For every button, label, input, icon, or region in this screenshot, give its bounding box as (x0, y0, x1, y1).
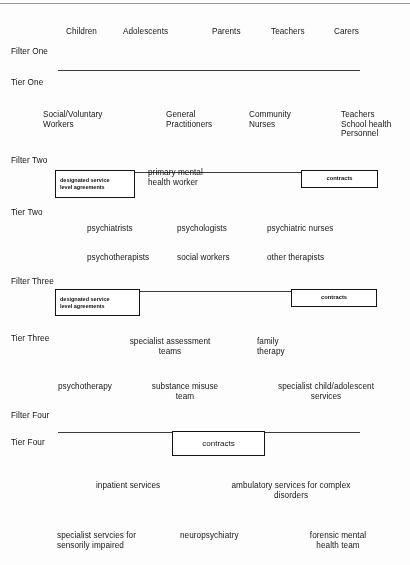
stage-label-tier-four: Tier Four (11, 438, 45, 448)
tier-two-role-psychiatric-nurses: psychiatric nurses (267, 224, 333, 234)
population-item-parents: Parents (212, 27, 241, 37)
tier-four-service-forensic-mental-health-team: forensic mental health team (297, 531, 379, 550)
stage-label-filter-two: Filter Two (11, 156, 47, 166)
tier-three-service-psychotherapy: psychotherapy (58, 382, 112, 392)
tier-one-role-community-nurses: Community Nurses (249, 110, 291, 129)
filter-one-rule (58, 70, 360, 71)
tier-two-role-psychologists: psychologists (177, 224, 227, 234)
filter-two-sla-box: designated service level agreements (55, 170, 135, 198)
tier-four-service-inpatient-services: inpatient services (96, 481, 160, 491)
tier-three-service-specialist-assessment-teams: specialist assessment teams (108, 337, 232, 356)
page-top-rule (0, 3, 410, 4)
stage-label-tier-three: Tier Three (11, 334, 49, 344)
diagram-canvas: Children Adolescents Parents Teachers Ca… (0, 0, 410, 565)
stage-label-tier-two: Tier Two (11, 208, 43, 218)
filter-four-contracts-box: contracts (172, 431, 265, 456)
tier-one-role-teachers-school-health: Teachers School health Personnel (341, 110, 391, 139)
tier-three-service-substance-misuse-team: substance misuse team (143, 382, 227, 401)
population-item-adolescents: Adolescents (123, 27, 168, 37)
tier-two-role-psychotherapists: psychotherapists (87, 253, 149, 263)
stage-label-tier-one: Tier One (11, 78, 43, 88)
tier-one-role-social-voluntary-workers: Social/Voluntary Workers (43, 110, 103, 129)
stage-label-filter-four: Filter Four (11, 411, 49, 421)
tier-two-role-psychiatrists: psychiatrists (87, 224, 133, 234)
filter-three-contracts-box: contracts (291, 289, 377, 307)
tier-three-service-family-therapy: family therapy (257, 337, 285, 356)
filter-two-contracts-box: contracts (301, 170, 378, 188)
tier-four-service-specialist-sensorily-impaired: specialist servcies for sensorily impair… (57, 531, 136, 550)
tier-two-role-social-workers: social workers (177, 253, 230, 263)
stage-label-filter-three: Filter Three (11, 277, 54, 287)
tier-one-role-general-practitioners: General Practitioners (166, 110, 212, 129)
tier-two-role-other-therapists: other therapists (267, 253, 324, 263)
population-item-carers: Carers (334, 27, 359, 37)
filter-three-sla-box: designated service level agreements (55, 289, 140, 316)
population-item-teachers: Teachers (271, 27, 305, 37)
stage-label-filter-one: Filter One (11, 47, 48, 57)
population-item-children: Children (66, 27, 97, 37)
tier-four-service-ambulatory-services: ambulatory services for complex disorder… (215, 481, 367, 500)
tier-four-service-neuropsychiatry: neuropsychiatry (180, 531, 239, 541)
filter-two-primary-mental-health-worker: primary mental health worker (148, 168, 203, 187)
tier-three-service-specialist-child-adolescent: specialist child/adolescent services (265, 382, 387, 401)
